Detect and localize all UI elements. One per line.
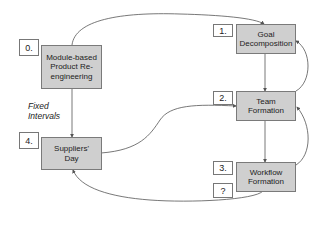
unknown-step-marker: ? — [213, 183, 233, 198]
step-box-suppliers-day[interactable]: Suppliers' Day — [41, 137, 102, 170]
note-line-2: Intervals — [28, 111, 60, 121]
step-label-0: Module-based Product Re-engineering — [46, 53, 98, 82]
step-number-0: 0. — [19, 39, 39, 56]
fixed-intervals-note: Fixed Intervals — [28, 101, 60, 121]
note-line-1: Fixed — [28, 101, 60, 111]
step-label-1: Goal Decomposition — [238, 30, 294, 49]
step-box-goal-decomposition[interactable]: Goal Decomposition — [236, 24, 296, 54]
step-label-3: Workflow Formation — [244, 168, 288, 187]
step-box-workflow-formation[interactable]: Workflow Formation — [236, 162, 296, 192]
step-label-2: Team Formation — [246, 97, 286, 116]
step-number-2: 2. — [213, 91, 233, 105]
step-number-4: 4. — [19, 132, 39, 149]
step-box-module-based-product-reengineering[interactable]: Module-based Product Re-engineering — [41, 45, 102, 89]
step-box-team-formation[interactable]: Team Formation — [236, 91, 296, 121]
step-number-3: 3. — [213, 161, 233, 175]
step-label-4: Suppliers' Day — [52, 144, 92, 163]
step-number-1: 1. — [213, 24, 233, 37]
